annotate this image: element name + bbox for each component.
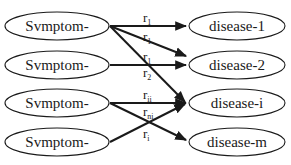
disease-label: disease-2 <box>209 57 265 73</box>
edge-label-s4-di: rni <box>143 104 154 121</box>
symptom-label: Svmptom- <box>25 95 88 111</box>
symptom-disease-diagram: r1 r1 r1 r2 rii rni ri Svmptom- Svmptom-… <box>0 0 291 165</box>
edge-label-s2-d2: r1 <box>143 49 151 66</box>
disease-nodes: disease-1 disease-2 disease-i disease-m <box>189 12 285 156</box>
symptom-node-1: Svmptom- <box>5 12 109 40</box>
disease-node-1: disease-1 <box>189 12 285 40</box>
edge-label-s1-d2: r1 <box>143 29 151 46</box>
symptom-nodes: Svmptom- Svmptom- Svmptom- Svmptom- <box>5 12 109 156</box>
disease-label: disease-m <box>207 134 267 150</box>
symptom-label: Svmptom- <box>25 18 88 34</box>
symptom-node-4: Svmptom- <box>5 128 109 156</box>
symptom-node-2: Svmptom- <box>5 51 109 79</box>
edge-label-s3-dm: ri <box>143 126 150 143</box>
symptom-node-3: Svmptom- <box>5 89 109 117</box>
disease-node-i: disease-i <box>189 89 285 117</box>
symptom-label: Svmptom- <box>25 134 88 150</box>
symptom-label: Svmptom- <box>25 57 88 73</box>
disease-node-m: disease-m <box>189 128 285 156</box>
disease-label: disease-i <box>211 95 263 111</box>
disease-label: disease-1 <box>209 18 265 34</box>
disease-node-2: disease-2 <box>189 51 285 79</box>
edge-label-s1-d1: r1 <box>143 10 151 27</box>
edge-label-s3-di: rii <box>143 87 153 104</box>
